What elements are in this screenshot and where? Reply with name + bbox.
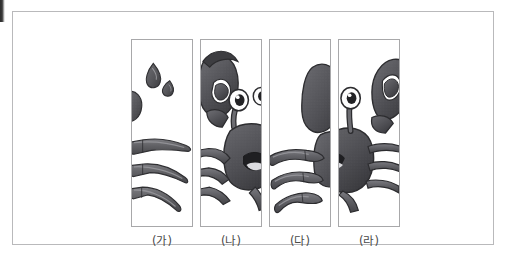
scan-edge-artifact [0,0,5,22]
panel-label-da: (다) [269,232,331,248]
panel-na [200,39,262,227]
panel-ra-artwork [339,40,399,226]
panel-da-artwork [270,40,330,226]
panel-label-ra: (라) [338,232,400,248]
panel-label-ga: (가) [131,232,193,248]
figure-frame: (가) (나) (다) (라) [12,11,494,245]
panel-ga [131,39,193,227]
panel-na-artwork [201,40,261,226]
panel-strip: (가) (나) (다) (라) [131,39,403,227]
panel-ga-artwork [132,40,192,226]
panel-ra [338,39,400,227]
panel-label-na: (나) [200,232,262,248]
panel-da [269,39,331,227]
